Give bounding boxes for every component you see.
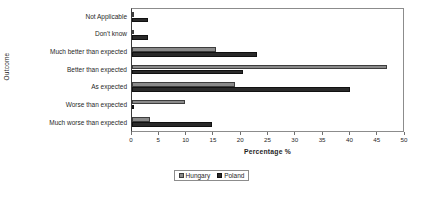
bar-group: [132, 79, 403, 96]
legend-entry-poland[interactable]: Poland: [217, 172, 244, 179]
y-axis-title: Outcome: [0, 0, 14, 133]
x-axis-tick: [349, 132, 350, 135]
bar-poland: [132, 35, 148, 40]
bar-hungary: [132, 65, 387, 70]
x-axis-tick-label: 35: [319, 136, 326, 143]
bar-poland: [132, 70, 243, 75]
legend-label: Poland: [224, 172, 244, 179]
x-axis-tick-label: 45: [373, 136, 380, 143]
legend: HungaryPoland: [0, 170, 423, 181]
bar-group: [132, 114, 403, 131]
bar-hungary: [132, 82, 235, 87]
x-axis-tick: [322, 132, 323, 135]
x-axis-tick-label: 10: [182, 136, 189, 143]
category-label: Much worse than expected: [14, 114, 130, 132]
category-label: Better than expected: [14, 61, 130, 79]
x-axis-tick-label: 40: [346, 136, 353, 143]
x-axis: 05101520253035404550: [131, 132, 404, 146]
bar-hungary: [132, 12, 134, 17]
bar-hungary: [132, 30, 134, 35]
legend-box: HungaryPoland: [174, 170, 250, 181]
x-axis-tick: [212, 132, 213, 135]
bar-hungary: [132, 117, 150, 122]
category-label: As expected: [14, 79, 130, 97]
x-axis-tick-label: 30: [291, 136, 298, 143]
x-axis-tick: [267, 132, 268, 135]
bar-poland: [132, 122, 212, 127]
category-label: Much better than expected: [14, 43, 130, 61]
x-axis-tick: [294, 132, 295, 135]
x-axis-tick-label: 20: [237, 136, 244, 143]
x-axis-tick-label: 25: [264, 136, 271, 143]
x-axis-tick: [376, 132, 377, 135]
bar-group: [132, 44, 403, 61]
x-axis-tick: [240, 132, 241, 135]
x-axis-tick: [404, 132, 405, 135]
x-axis-title: Percentage %: [131, 148, 404, 155]
x-axis-tick: [185, 132, 186, 135]
bar-group: [132, 96, 403, 113]
bar-hungary: [132, 100, 185, 105]
y-axis-title-text: Outcome: [4, 53, 11, 81]
category-label: Worse than expected: [14, 97, 130, 115]
bar-poland: [132, 87, 350, 92]
category-label: Don't know: [14, 26, 130, 44]
x-axis-tick-label: 15: [209, 136, 216, 143]
bar-group: [132, 61, 403, 78]
bar-poland: [132, 52, 257, 57]
y-axis-category-labels: Not ApplicableDon't knowMuch better than…: [14, 8, 130, 132]
x-axis-tick-label: 0: [129, 136, 132, 143]
legend-swatch-icon: [217, 173, 222, 178]
bar-group: [132, 9, 403, 26]
bar-chart: Outcome Not ApplicableDon't knowMuch bet…: [0, 0, 423, 205]
bar-poland: [132, 18, 148, 23]
legend-swatch-icon: [179, 173, 184, 178]
category-label: Not Applicable: [14, 8, 130, 26]
legend-label: Hungary: [186, 172, 211, 179]
x-axis-tick-label: 5: [157, 136, 160, 143]
x-axis-tick: [131, 132, 132, 135]
legend-entry-hungary[interactable]: Hungary: [179, 172, 211, 179]
bar-group: [132, 26, 403, 43]
bar-hungary: [132, 47, 216, 52]
bar-poland: [132, 105, 134, 110]
x-axis-tick: [158, 132, 159, 135]
plot-area: [131, 8, 404, 132]
x-axis-tick-label: 50: [401, 136, 408, 143]
